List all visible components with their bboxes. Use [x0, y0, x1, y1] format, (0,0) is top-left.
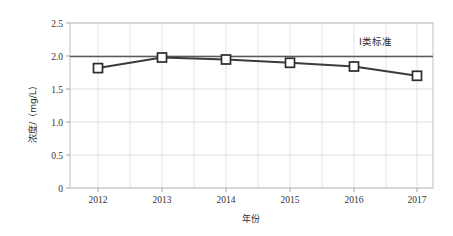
x-tick-label-2017: 2017 [408, 195, 427, 205]
data-point-2016 [350, 62, 359, 71]
chart-canvas: Ⅰ类标准 2.5 2.0 1.5 1.0 0.5 0 [0, 0, 453, 236]
x-axis-title: 年份 [242, 213, 260, 224]
y-axis-title: 浓度/（mg/L） [27, 81, 38, 143]
x-tick-label-2013: 2013 [153, 195, 172, 205]
y-tick-label-0: 0 [58, 184, 63, 194]
y-tick-label-0.5: 0.5 [51, 151, 63, 161]
y-axis-tick-marks [66, 23, 70, 188]
x-tick-label-2016: 2016 [345, 195, 364, 205]
x-axis-tick-marks [98, 188, 417, 192]
concentration-trend-chart: Ⅰ类标准 2.5 2.0 1.5 1.0 0.5 0 [0, 0, 453, 236]
data-point-2013 [158, 53, 167, 62]
data-point-2015 [286, 58, 295, 67]
plot-background [70, 23, 433, 188]
data-point-2017 [413, 71, 422, 80]
reference-line-label: Ⅰ类标准 [359, 36, 392, 47]
y-tick-label-1.0: 1.0 [51, 118, 63, 128]
y-axis-tick-labels: 2.5 2.0 1.5 1.0 0.5 0 [51, 19, 63, 194]
y-tick-label-2.0: 2.0 [51, 52, 63, 62]
data-point-2014 [222, 55, 231, 64]
y-tick-label-2.5: 2.5 [51, 19, 63, 29]
x-tick-label-2012: 2012 [89, 195, 108, 205]
data-point-2012 [94, 64, 103, 73]
x-tick-label-2015: 2015 [281, 195, 300, 205]
x-axis-tick-labels: 2012 2013 2014 2015 2016 2017 [89, 195, 427, 205]
y-tick-label-1.5: 1.5 [51, 85, 63, 95]
x-tick-label-2014: 2014 [217, 195, 236, 205]
